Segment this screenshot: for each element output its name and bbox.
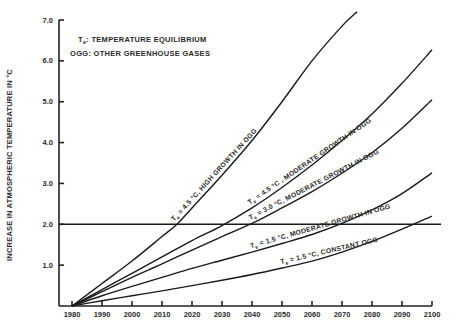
x-tick-label: 2080 [364,310,381,319]
y-tick-label: 1.0 [43,261,53,270]
y-tick-label: 6.0 [43,56,53,65]
x-tick-label: 2000 [124,310,141,319]
x-tick-label: 2090 [394,310,411,319]
y-ticks: 1.02.03.04.05.06.07.0 [43,16,64,270]
x-tick-label: 1980 [64,310,81,319]
y-tick-label: 2.0 [43,220,53,229]
y-tick-label: 4.0 [43,138,53,147]
x-tick-label: 2070 [334,310,351,319]
y-tick-label: 3.0 [43,179,53,188]
series-line-2 [72,50,432,306]
legend: Te: TEMPERATURE EQUILIBRIUM OGG: OTHER G… [70,35,210,58]
series-label-1: Te = 4.5 °C, HIGH GROWTH IN OGG [170,127,260,224]
series-line-5 [72,216,432,306]
y-tick-label: 7.0 [43,16,53,25]
x-tick-label: 2100 [424,310,441,319]
x-tick-label: 1990 [94,310,111,319]
x-tick-label: 2020 [184,310,201,319]
y-axis-label: INCREASE IN ATMOSPHERIC TEMPERATURE IN °… [5,69,14,261]
x-tick-label: 2060 [304,310,321,319]
y-tick-label: 5.0 [43,97,53,106]
x-tick-label: 2040 [244,310,261,319]
axes [59,20,432,306]
x-ticks: 1980199020002010202020302040205020602070… [64,301,441,319]
x-tick-label: 2010 [154,310,171,319]
legend-line-1: Te: TEMPERATURE EQUILIBRIUM [78,35,207,45]
x-tick-label: 2030 [214,310,231,319]
temperature-chart: Te: TEMPERATURE EQUILIBRIUM OGG: OTHER G… [0,0,456,336]
x-tick-label: 2050 [274,310,291,319]
legend-line-2: OGG: OTHER GREENHOUSE GASES [70,49,210,58]
